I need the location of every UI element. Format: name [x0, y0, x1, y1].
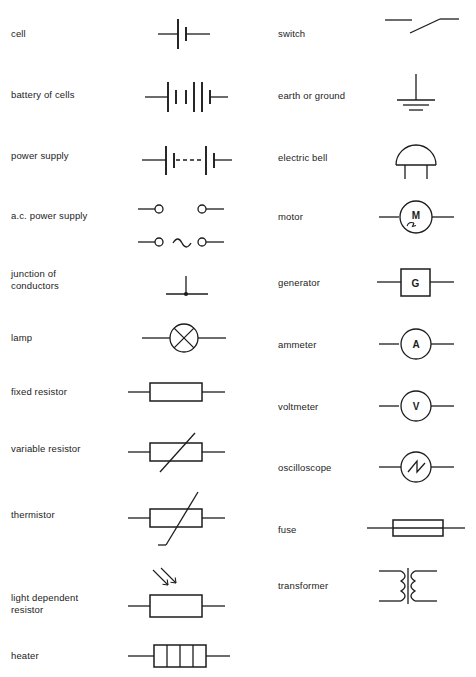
voltmeter-glyph: V [413, 401, 420, 412]
generator-glyph: G [412, 278, 420, 289]
fixed-resistor-symbol [120, 376, 235, 408]
label-battery-of-cells: battery of cells [11, 89, 131, 101]
label-thermistor: thermistor [11, 509, 131, 521]
label-light-dependent-resistor: light dependent resistor [11, 592, 131, 616]
power-supply-symbol [120, 142, 230, 178]
battery-of-cells-symbol [120, 78, 230, 114]
label-power-supply: power supply [11, 150, 131, 162]
label-variable-resistor: variable resistor [11, 443, 131, 455]
lamp-symbol [120, 318, 230, 358]
ammeter-symbol: A [355, 325, 465, 363]
variable-resistor-symbol [120, 427, 235, 477]
earth-or-ground-symbol [355, 70, 465, 116]
voltmeter-symbol: V [355, 387, 465, 425]
motor-symbol: M [355, 198, 465, 236]
light-dependent-resistor-symbol [120, 566, 235, 622]
thermistor-symbol [120, 487, 235, 549]
label-heater: heater [11, 650, 131, 662]
transformer-symbol [355, 563, 465, 613]
oscilloscope-symbol [355, 448, 465, 486]
label-junction-of-conductors: junction of conductors [11, 268, 131, 292]
circuit-symbols-sheet: cell battery of cells [0, 0, 476, 677]
label-fixed-resistor: fixed resistor [11, 386, 131, 398]
label-lamp: lamp [11, 332, 131, 344]
cell-symbol [120, 16, 230, 50]
electric-bell-symbol [355, 133, 465, 181]
fuse-symbol [355, 512, 470, 544]
junction-of-conductors-symbol [120, 270, 230, 304]
heater-symbol [120, 638, 235, 672]
label-ac-power-supply: a.c. power supply [11, 210, 131, 222]
label-cell: cell [11, 28, 131, 40]
switch-symbol [355, 14, 465, 48]
ammeter-glyph: A [412, 339, 419, 350]
generator-symbol: G [355, 262, 465, 302]
motor-glyph: M [412, 210, 420, 221]
ac-power-supply-symbol [120, 196, 235, 256]
